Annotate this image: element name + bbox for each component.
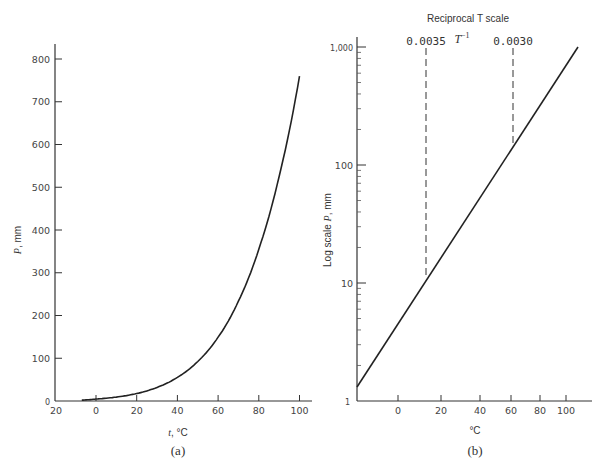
chart-a-y-label: P, mm: [12, 226, 23, 255]
top-tick-label-0030: 0.0030: [493, 35, 533, 48]
y-tick-label: 700: [32, 96, 50, 107]
x-tick-label: 40: [474, 405, 486, 416]
chart-b: Reciprocal T scale 1101001,000 020406080…: [322, 13, 592, 458]
chart-a: 0100200300400500600700800 20020406080100…: [12, 44, 312, 458]
chart-b-title: Reciprocal T scale: [427, 13, 509, 24]
y-tick-label: 1,000: [330, 44, 353, 53]
x-tick-label: 60: [505, 405, 517, 416]
y-tick-label: 10: [341, 278, 353, 289]
x-tick-label: 40: [171, 405, 183, 416]
y-tick-label: 800: [32, 54, 50, 65]
y-tick-label: 300: [32, 267, 50, 278]
y-tick-label: 1: [345, 398, 350, 407]
chart-b-y-label: Log scale P, mm: [322, 193, 333, 267]
chart-a-x-label: t, °C: [168, 427, 188, 438]
y-tick-label: 500: [32, 182, 50, 193]
x-tick-label: 0: [395, 405, 401, 416]
x-tick-label: 80: [253, 405, 265, 416]
x-tick-label: 0: [93, 405, 99, 416]
chart-a-x-ticks: 20020406080100: [50, 395, 309, 416]
y-tick-label: 200: [32, 310, 50, 321]
chart-a-y-ticks: 0100200300400500600700800: [32, 54, 62, 407]
x-tick-label: 100: [290, 405, 308, 416]
chart-b-x-label: °C: [469, 425, 480, 436]
x-tick-label: 100: [557, 405, 575, 416]
y-tick-label: 100: [32, 353, 50, 364]
y-tick-label: 400: [32, 225, 50, 236]
top-tick-label-0035: 0.0035: [406, 35, 446, 48]
figure-canvas: 0100200300400500600700800 20020406080100…: [0, 0, 610, 471]
chart-a-caption: (a): [171, 443, 185, 458]
chart-b-x-ticks: 020406080100: [395, 395, 575, 416]
x-tick-label: 20: [435, 405, 447, 416]
chart-b-y-ticks: 1101001,000: [330, 44, 366, 407]
top-axis-label: T−1: [454, 31, 469, 46]
x-tick-label: 60: [212, 405, 224, 416]
chart-b-caption: (b): [467, 443, 482, 458]
y-tick-label: 100: [335, 160, 353, 171]
chart-b-line: [357, 47, 578, 387]
x-tick-label: 20: [50, 405, 62, 416]
chart-a-curve: [82, 76, 300, 400]
x-tick-label: 80: [534, 405, 546, 416]
y-tick-label: 600: [32, 139, 50, 150]
x-tick-label: 20: [131, 405, 143, 416]
